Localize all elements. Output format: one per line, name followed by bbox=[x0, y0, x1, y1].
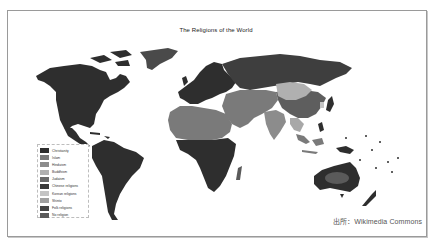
region-north-america bbox=[36, 64, 130, 130]
region-new-zealand bbox=[362, 190, 376, 206]
region-india bbox=[264, 110, 286, 140]
legend-label: Judaism bbox=[52, 177, 65, 181]
legend-label: Chinese religions bbox=[52, 184, 78, 188]
legend-label: Folk religions bbox=[52, 206, 72, 210]
region-central-australia bbox=[325, 172, 349, 184]
region-caribbean bbox=[90, 132, 110, 139]
legend-item-folk-religions: Folk religions bbox=[40, 205, 86, 212]
legend-label: Shinto bbox=[52, 199, 62, 203]
legend-swatch bbox=[40, 170, 49, 175]
legend-item-chinese-religions: Chinese religions bbox=[40, 183, 86, 190]
legend-item-buddhism: Buddhism bbox=[40, 169, 86, 176]
region-arctic-islands bbox=[90, 50, 132, 66]
region-indonesia bbox=[296, 134, 324, 154]
region-sub-saharan-africa bbox=[176, 138, 236, 192]
region-new-guinea bbox=[336, 146, 354, 154]
legend-item-no-religion: No religion bbox=[40, 212, 86, 219]
legend-item-korean-religions: Korean religions bbox=[40, 190, 86, 197]
region-japan bbox=[326, 96, 334, 112]
region-philippines bbox=[318, 122, 324, 132]
legend-label: No religion bbox=[52, 213, 68, 217]
legend-swatch bbox=[40, 198, 49, 203]
legend-swatch bbox=[40, 206, 49, 211]
legend-swatch bbox=[40, 177, 49, 182]
legend-item-shinto: Shinto bbox=[40, 197, 86, 204]
legend-label: Hinduism bbox=[52, 163, 66, 167]
legend-item-christianity: Christianity bbox=[40, 147, 86, 154]
legend-item-judaism: Judaism bbox=[40, 176, 86, 183]
map-title: The Religions of the World bbox=[0, 27, 432, 33]
region-tasmania bbox=[340, 194, 344, 198]
legend-swatch bbox=[40, 191, 49, 196]
legend-label: Christianity bbox=[52, 149, 69, 153]
legend-swatch bbox=[40, 148, 49, 153]
legend-swatch bbox=[40, 184, 49, 189]
region-greenland bbox=[140, 48, 178, 70]
map-legend: Christianity Islam Hinduism Buddhism Jud… bbox=[37, 144, 89, 218]
source-credit: 出所：Wikimedia Commons bbox=[333, 216, 422, 226]
legend-label: Islam bbox=[52, 156, 60, 160]
legend-swatch bbox=[40, 155, 49, 160]
legend-swatch bbox=[40, 162, 49, 167]
region-south-america bbox=[92, 140, 144, 220]
legend-item-hinduism: Hinduism bbox=[40, 161, 86, 168]
legend-label: Buddhism bbox=[52, 170, 67, 174]
region-southeast-asia bbox=[290, 118, 304, 132]
legend-label: Korean religions bbox=[52, 192, 77, 196]
legend-swatch bbox=[40, 213, 49, 218]
legend-item-islam: Islam bbox=[40, 154, 86, 161]
region-uk bbox=[182, 76, 188, 86]
region-madagascar bbox=[236, 166, 242, 180]
region-north-africa bbox=[168, 106, 232, 140]
region-korea bbox=[320, 102, 324, 108]
